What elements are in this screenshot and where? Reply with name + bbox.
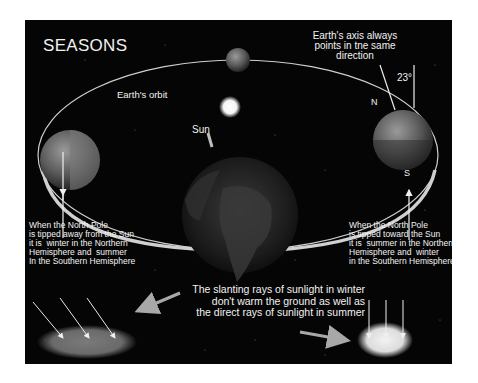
earth-top — [226, 48, 250, 72]
sunlight-rays-note: The slanting rays of sunlight in winter … — [165, 284, 365, 319]
tilt-degree-label: 23° — [397, 73, 412, 83]
seasons-diagram: SEASONS Earth's axis always points in tn… — [25, 20, 452, 364]
south-pole-label: S — [404, 169, 410, 178]
diagram-title: SEASONS — [43, 37, 127, 54]
summer-ground-spot — [357, 322, 413, 358]
axis-note-label: Earth's axis always points in tne same d… — [295, 31, 415, 61]
north-pole-label: N — [371, 98, 378, 107]
earth-axis-line — [380, 65, 395, 110]
winter-ground-spot — [37, 325, 137, 359]
sun-label: Sun — [192, 125, 210, 135]
summer-caption: When the North Pole is tipped toward the… — [349, 221, 452, 266]
orbit-label: Earth's orbit — [117, 90, 167, 100]
sun-icon — [219, 96, 241, 118]
winter-caption: When the North Pole is tipped away from … — [29, 221, 135, 266]
